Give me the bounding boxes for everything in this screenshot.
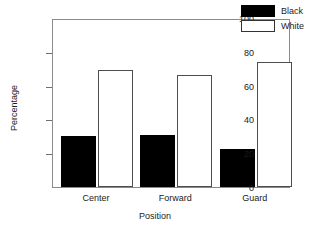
plot-area <box>52 19 290 188</box>
y-tick-label: 40 <box>244 116 254 125</box>
y-tick-mark <box>46 87 52 88</box>
x-tick-label-guard: Guard <box>242 193 267 203</box>
y-tick-mark <box>46 120 52 121</box>
y-tick-mark <box>46 53 52 54</box>
legend-label-black: Black <box>281 6 303 16</box>
legend-item-black: Black <box>241 5 304 17</box>
legend-swatch-white <box>241 20 275 32</box>
y-tick-label: 20 <box>244 150 254 159</box>
bar-forward-black <box>140 135 175 187</box>
bar-forward-white <box>177 75 212 187</box>
x-axis-title: Position <box>0 211 310 221</box>
bar-group <box>140 20 212 187</box>
x-tick-label-forward: Forward <box>159 193 192 203</box>
x-tick-label-center: Center <box>82 193 109 203</box>
y-tick-label: 60 <box>244 82 254 91</box>
y-tick-label: 80 <box>244 48 254 57</box>
bar-group <box>220 20 292 187</box>
legend-item-white: White <box>241 20 304 32</box>
bar-guard-white <box>257 62 292 187</box>
legend: BlackWhite <box>241 5 304 32</box>
legend-label-white: White <box>281 21 304 31</box>
bar-center-black <box>61 136 96 187</box>
bars-layer <box>53 20 289 187</box>
bar-group <box>61 20 133 187</box>
chart-figure: 020406080100 CenterForwardGuard Percenta… <box>0 0 310 234</box>
y-axis-title: Percentage <box>9 63 19 153</box>
bar-center-white <box>98 70 133 187</box>
y-tick-label: 0 <box>249 184 254 193</box>
y-tick-mark <box>46 154 52 155</box>
legend-swatch-black <box>241 5 275 17</box>
